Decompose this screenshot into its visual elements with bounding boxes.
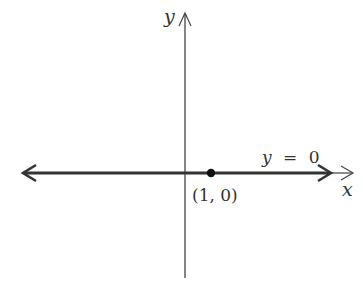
x-axis-label: x (342, 178, 353, 200)
equation-rhs: 0 (309, 147, 320, 167)
point-label: (1, 0) (192, 185, 238, 205)
equation-lhs: y (261, 147, 272, 167)
line-equation-label: y = 0 (261, 147, 320, 167)
equation-eq: = (283, 147, 297, 167)
coordinate-plane: y x y = 0 (1, 0) (0, 0, 363, 292)
point-1-0 (207, 169, 215, 177)
y-axis-label: y (163, 5, 175, 27)
